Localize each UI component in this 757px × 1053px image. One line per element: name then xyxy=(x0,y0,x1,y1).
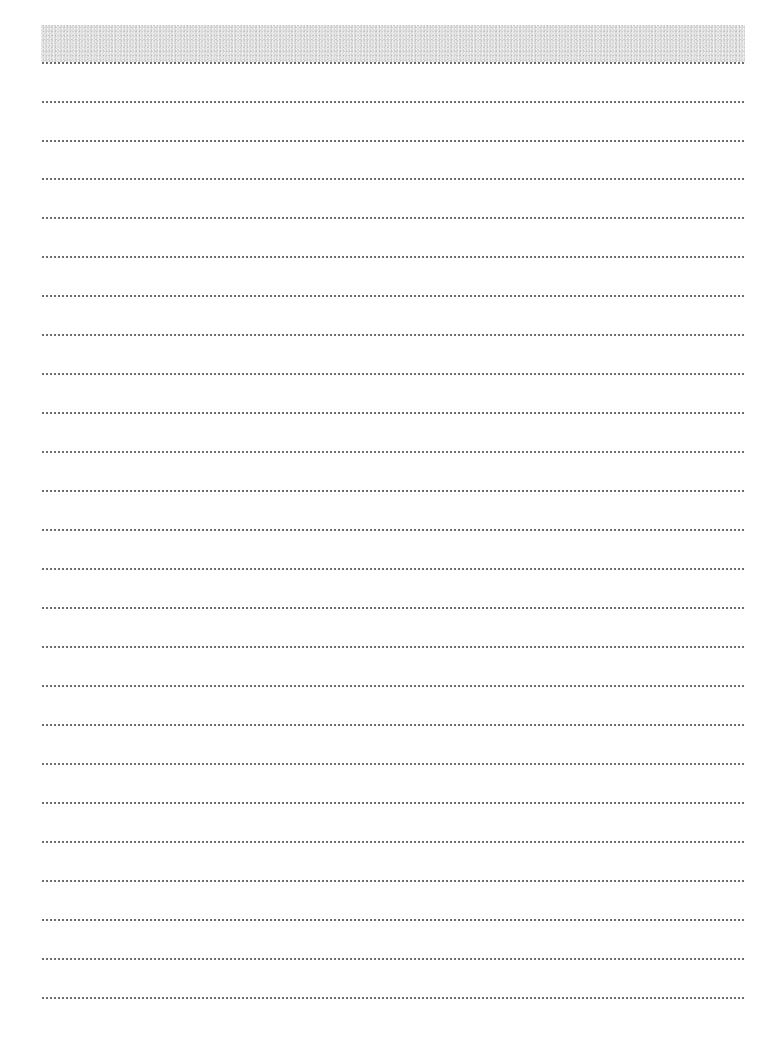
header-band xyxy=(41,25,745,62)
ruled-line xyxy=(41,646,745,648)
ruled-line xyxy=(41,334,745,336)
ruled-line xyxy=(41,451,745,453)
ruled-line xyxy=(41,217,745,219)
ruled-line xyxy=(41,997,745,999)
ruled-line xyxy=(41,958,745,960)
ruled-line xyxy=(41,724,745,726)
ruled-line xyxy=(41,880,745,882)
ruled-line xyxy=(41,568,745,570)
ruled-line xyxy=(41,140,745,142)
ruled-line xyxy=(41,490,745,492)
ruled-line xyxy=(41,802,745,804)
ruled-line xyxy=(41,919,745,921)
ruled-line xyxy=(41,62,745,64)
ruled-line xyxy=(41,607,745,609)
ruled-line xyxy=(41,685,745,687)
ruled-line xyxy=(41,763,745,765)
ruled-line xyxy=(41,101,745,103)
ruled-line xyxy=(41,256,745,258)
ruled-line xyxy=(41,529,745,531)
ruled-line xyxy=(41,412,745,414)
notepaper-page xyxy=(0,0,757,1053)
ruled-line xyxy=(41,373,745,375)
ruled-line xyxy=(41,841,745,843)
ruled-line xyxy=(41,178,745,180)
ruled-line xyxy=(41,295,745,297)
